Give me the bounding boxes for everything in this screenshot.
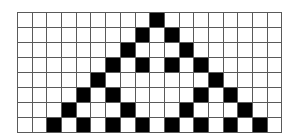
filled-cell	[165, 28, 180, 43]
empty-cell	[121, 58, 136, 73]
empty-cell	[180, 118, 195, 133]
filled-cell	[224, 88, 239, 103]
empty-cell	[62, 28, 77, 43]
filled-cell	[136, 58, 151, 73]
empty-cell	[106, 73, 121, 88]
empty-cell	[209, 58, 224, 73]
empty-cell	[253, 103, 268, 118]
empty-cell	[194, 13, 209, 28]
empty-cell	[238, 43, 253, 58]
empty-cell	[62, 88, 77, 103]
empty-cell	[121, 73, 136, 88]
empty-cell	[253, 88, 268, 103]
empty-cell	[91, 43, 106, 58]
empty-cell	[77, 43, 92, 58]
empty-cell	[62, 73, 77, 88]
filled-cell	[77, 118, 92, 133]
empty-cell	[268, 58, 283, 73]
empty-cell	[121, 28, 136, 43]
empty-cell	[33, 103, 48, 118]
empty-cell	[209, 13, 224, 28]
empty-cell	[18, 73, 33, 88]
filled-cell	[194, 118, 209, 133]
empty-cell	[209, 28, 224, 43]
empty-cell	[136, 73, 151, 88]
empty-cell	[62, 43, 77, 58]
empty-cell	[18, 13, 33, 28]
filled-cell	[165, 118, 180, 133]
empty-cell	[165, 13, 180, 28]
empty-cell	[194, 28, 209, 43]
empty-cell	[165, 43, 180, 58]
empty-cell	[268, 43, 283, 58]
empty-cell	[238, 88, 253, 103]
empty-cell	[106, 103, 121, 118]
empty-cell	[268, 103, 283, 118]
empty-cell	[47, 13, 62, 28]
filled-cell	[194, 58, 209, 73]
filled-cell	[180, 103, 195, 118]
empty-cell	[165, 73, 180, 88]
empty-cell	[136, 88, 151, 103]
empty-cell	[33, 118, 48, 133]
filled-cell	[224, 118, 239, 133]
empty-cell	[180, 73, 195, 88]
empty-cell	[194, 43, 209, 58]
filled-cell	[136, 118, 151, 133]
empty-cell	[209, 118, 224, 133]
empty-cell	[18, 43, 33, 58]
empty-cell	[224, 13, 239, 28]
empty-cell	[253, 73, 268, 88]
empty-cell	[106, 43, 121, 58]
empty-cell	[91, 58, 106, 73]
empty-cell	[136, 103, 151, 118]
filled-cell	[47, 118, 62, 133]
empty-cell	[62, 13, 77, 28]
empty-cell	[224, 58, 239, 73]
empty-cell	[33, 58, 48, 73]
empty-cell	[47, 103, 62, 118]
empty-cell	[238, 58, 253, 73]
empty-cell	[224, 103, 239, 118]
filled-cell	[106, 58, 121, 73]
empty-cell	[194, 103, 209, 118]
empty-cell	[91, 88, 106, 103]
empty-cell	[180, 13, 195, 28]
empty-cell	[77, 13, 92, 28]
empty-cell	[77, 28, 92, 43]
empty-cell	[47, 43, 62, 58]
empty-cell	[253, 43, 268, 58]
empty-cell	[238, 73, 253, 88]
empty-cell	[165, 88, 180, 103]
empty-cell	[180, 58, 195, 73]
empty-cell	[18, 28, 33, 43]
empty-cell	[150, 88, 165, 103]
empty-cell	[18, 88, 33, 103]
filled-cell	[106, 118, 121, 133]
filled-cell	[62, 103, 77, 118]
empty-cell	[238, 118, 253, 133]
empty-cell	[47, 73, 62, 88]
empty-cell	[121, 88, 136, 103]
empty-cell	[33, 28, 48, 43]
empty-cell	[136, 13, 151, 28]
empty-cell	[150, 43, 165, 58]
filled-cell	[136, 28, 151, 43]
empty-cell	[91, 118, 106, 133]
empty-cell	[47, 58, 62, 73]
empty-cell	[91, 28, 106, 43]
filled-cell	[91, 73, 106, 88]
empty-cell	[106, 13, 121, 28]
empty-cell	[77, 73, 92, 88]
empty-cell	[268, 28, 283, 43]
filled-cell	[194, 88, 209, 103]
empty-cell	[180, 28, 195, 43]
empty-cell	[150, 73, 165, 88]
empty-cell	[209, 43, 224, 58]
empty-cell	[62, 58, 77, 73]
empty-cell	[18, 118, 33, 133]
filled-cell	[150, 13, 165, 28]
empty-cell	[33, 88, 48, 103]
empty-cell	[77, 103, 92, 118]
empty-cell	[62, 118, 77, 133]
